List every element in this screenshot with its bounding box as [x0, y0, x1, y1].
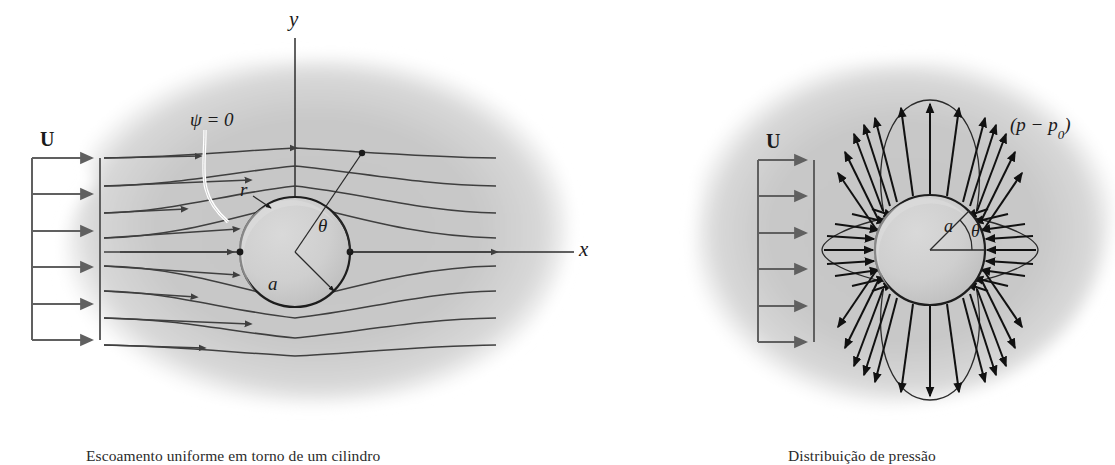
radius-r-label: r: [240, 179, 248, 200]
axis-y-label: y: [287, 7, 299, 31]
radius-a-label: a: [268, 273, 278, 294]
theta-label-left: θ: [318, 215, 327, 236]
theta-label-right: θ: [971, 221, 980, 241]
radius-a-label-right: a: [944, 216, 953, 236]
stagnation-point-front: [237, 249, 244, 256]
velocity-label-left: U: [40, 128, 54, 150]
panel-pressure-distribution: U: [694, 60, 1113, 405]
caption-uniform-flow: Escoamento uniforme em torno de um cilin…: [86, 447, 380, 465]
velocity-label-right: U: [766, 130, 780, 152]
streamfunction-label: ψ = 0: [190, 109, 234, 130]
caption-pressure-distribution: Distribuição de pressão: [788, 447, 936, 465]
pressure-label-paren: ): [1063, 114, 1070, 136]
pressure-label-main: (p − p: [1010, 114, 1058, 136]
axis-x-label: x: [578, 237, 589, 261]
panel-uniform-flow: y x U: [32, 7, 589, 405]
